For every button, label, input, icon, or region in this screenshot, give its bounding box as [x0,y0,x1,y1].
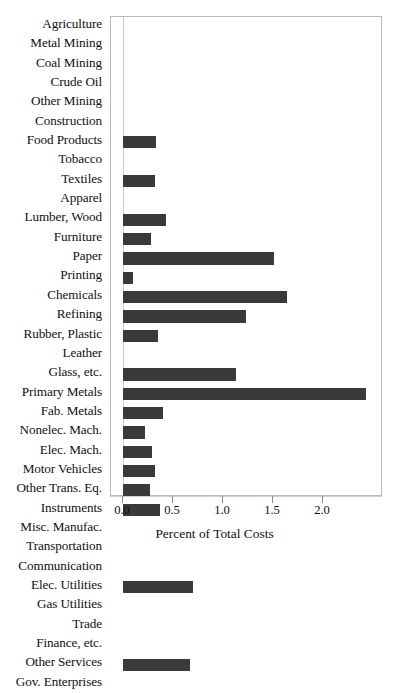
bar [123,272,133,284]
bar [123,407,163,419]
category-label: Elec. Mach. [0,440,106,459]
category-label: Food Products [0,130,106,149]
bar [123,426,145,438]
bar-row [111,539,381,558]
bar [123,330,158,342]
bar [123,233,151,245]
category-label: Communication [0,556,106,575]
bar [123,136,156,148]
bars-layer [111,17,381,495]
bar-row [111,617,381,636]
bar-row [111,404,381,423]
x-tick [272,496,273,503]
bar-row [111,56,381,75]
bar-row [111,636,381,655]
category-label: Chemicals [0,285,106,304]
category-label: Gov. Enterprises [0,672,106,691]
bar-row [111,365,381,384]
bar-row [111,307,381,326]
bar-row [111,288,381,307]
bar-row [111,675,381,693]
bar [123,368,236,380]
x-tick-label: 1.0 [214,503,230,518]
x-axis-title-text: Percent of Total Costs [155,526,273,542]
bar-row [111,578,381,597]
category-label: Other Mining [0,91,106,110]
category-label: Lumber, Wood [0,207,106,226]
x-axis-line [110,496,382,497]
bar-row [111,501,381,520]
category-label: Crude Oil [0,72,106,91]
bar-row [111,94,381,113]
bar-row [111,597,381,616]
category-label: Textiles [0,169,106,188]
category-label: Rubber, Plastic [0,324,106,343]
bar [123,484,150,496]
category-label: Other Services [0,652,106,671]
bar-row [111,17,381,36]
category-label: Metal Mining [0,33,106,52]
category-label: Primary Metals [0,382,106,401]
bar-row [111,462,381,481]
bar-row [111,423,381,442]
bar-row [111,249,381,268]
bar-row [111,152,381,171]
bar-row [111,133,381,152]
category-label: Refining [0,304,106,323]
bar [123,252,274,264]
category-label: Finance, etc. [0,633,106,652]
category-label: Glass, etc. [0,362,106,381]
category-label: Coal Mining [0,53,106,72]
category-axis-labels: AgricultureMetal MiningCoal MiningCrude … [0,14,106,691]
bar [123,291,287,303]
x-tick-label: 2.0 [314,503,330,518]
bar-row [111,346,381,365]
category-label: Elec. Utilities [0,575,106,594]
bar-row [111,268,381,287]
x-axis-title: Percent of Total Costs [0,526,397,542]
category-label: Paper [0,246,106,265]
x-tick-label: 0.0 [114,503,130,518]
bar-row [111,385,381,404]
x-tick [122,496,123,503]
category-label: Leather [0,343,106,362]
bar-row [111,191,381,210]
category-label: Trade [0,614,106,633]
bar-row [111,655,381,674]
category-label: Other Trans. Eq. [0,478,106,497]
category-label: Instruments [0,498,106,517]
bar [123,659,190,671]
x-tick [322,496,323,503]
bar [123,581,193,593]
bar-row [111,172,381,191]
x-tick-label: 1.5 [264,503,280,518]
category-label: Construction [0,111,106,130]
bar [123,175,155,187]
bar [123,465,155,477]
bar-row [111,443,381,462]
bar-row [111,230,381,249]
bar [123,388,366,400]
category-label: Tobacco [0,149,106,168]
category-label: Motor Vehicles [0,459,106,478]
bar [123,214,166,226]
category-label: Nonelec. Mach. [0,420,106,439]
x-tick [172,496,173,503]
bar-row [111,114,381,133]
bar-row [111,559,381,578]
category-label: Furniture [0,227,106,246]
bar-row [111,481,381,500]
category-label: Agriculture [0,14,106,33]
bar [123,310,246,322]
bar-row [111,36,381,55]
category-label: Gas Utilities [0,594,106,613]
bar-row [111,210,381,229]
category-label: Apparel [0,188,106,207]
category-label: Fab. Metals [0,401,106,420]
x-tick-label: 0.5 [164,503,180,518]
plot-area [110,16,382,496]
bar [123,446,152,458]
bar-row [111,327,381,346]
x-tick [222,496,223,503]
